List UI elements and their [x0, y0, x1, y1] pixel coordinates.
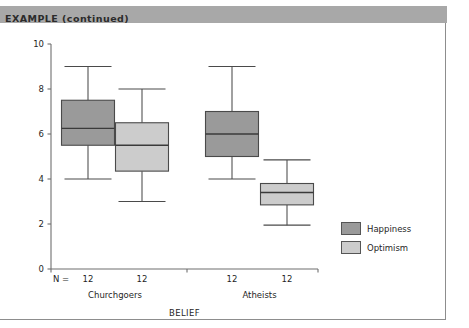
svg-text:Churchgoers: Churchgoers [88, 290, 142, 300]
svg-text:N =: N = [53, 274, 69, 284]
svg-text:12: 12 [137, 274, 148, 284]
box-optimism-churchgoers [116, 89, 169, 202]
svg-text:0: 0 [39, 264, 44, 274]
box-happiness-churchgoers [62, 67, 115, 180]
box-optimism-atheists [261, 160, 314, 225]
svg-text:8: 8 [39, 84, 44, 94]
box-happiness-atheists [206, 67, 259, 180]
svg-text:10: 10 [33, 39, 44, 49]
chart-canvas: 0246810N =12121212ChurchgoersAtheistsBEL… [0, 0, 469, 328]
legend-label-optimism: Optimism [367, 243, 408, 253]
legend-item-optimism: Optimism [341, 241, 411, 254]
legend-swatch-happiness [341, 222, 361, 235]
boxplot-chart: 0246810N =12121212ChurchgoersAtheistsBEL… [0, 0, 469, 328]
legend-label-happiness: Happiness [367, 224, 411, 234]
svg-text:2: 2 [39, 219, 44, 229]
svg-text:12: 12 [282, 274, 293, 284]
svg-text:12: 12 [227, 274, 238, 284]
svg-text:Atheists: Atheists [242, 290, 277, 300]
page-root: EXAMPLE (continued) 0246810N =12121212Ch… [0, 0, 469, 328]
legend-swatch-optimism [341, 241, 361, 254]
svg-text:6: 6 [39, 129, 44, 139]
legend-item-happiness: Happiness [341, 222, 411, 235]
chart-legend: Happiness Optimism [341, 222, 411, 260]
svg-text:4: 4 [39, 174, 44, 184]
svg-text:12: 12 [83, 274, 94, 284]
svg-text:BELIEF: BELIEF [169, 308, 200, 318]
